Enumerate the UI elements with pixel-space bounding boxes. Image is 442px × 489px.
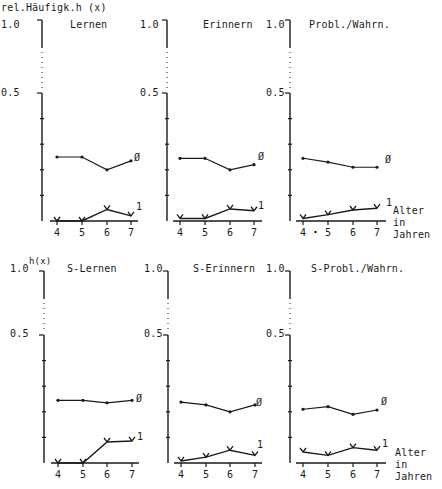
series-zero-line <box>58 400 132 403</box>
series-one-line <box>181 450 255 461</box>
series-zero-line <box>181 402 255 412</box>
series-zero-point <box>129 159 132 162</box>
series-zero-point <box>179 400 182 403</box>
series-zero-label: Ø <box>134 152 140 163</box>
series-zero-label: Ø <box>258 151 264 162</box>
series-one-marker <box>227 446 233 450</box>
series-one-label: 1 <box>386 197 392 208</box>
series-zero-point <box>351 166 354 169</box>
xtick-label: 5 <box>203 469 209 480</box>
series-one-marker <box>350 444 356 448</box>
stray-dot <box>314 231 316 233</box>
series-zero-point <box>204 403 207 406</box>
series-one-line <box>58 441 132 463</box>
series-zero-line <box>180 158 254 170</box>
series-zero-point <box>301 157 304 160</box>
series-zero-point <box>56 399 59 402</box>
xtick-label: 7 <box>251 227 257 238</box>
series-one-marker <box>104 205 110 209</box>
xtick-label: 4 <box>300 227 306 238</box>
series-one-line <box>57 209 131 221</box>
series-zero-point <box>80 155 83 158</box>
series-zero-point <box>228 410 231 413</box>
xtick-label: 7 <box>374 227 380 238</box>
series-one-label: 1 <box>136 201 142 212</box>
series-one-label: 1 <box>258 200 264 211</box>
series-zero-point <box>252 163 255 166</box>
series-zero-line <box>303 158 377 167</box>
series-zero-point <box>326 161 329 164</box>
series-zero-line <box>57 157 131 170</box>
xtick-label: 5 <box>80 469 86 480</box>
series-one-label: 1 <box>137 431 143 442</box>
series-zero-point <box>375 166 378 169</box>
xtick-label: 6 <box>350 469 356 480</box>
series-one-marker <box>300 448 306 452</box>
series-zero-point <box>228 168 231 171</box>
series-zero-point <box>326 405 329 408</box>
series-zero-point <box>105 168 108 171</box>
series-zero-point <box>301 408 304 411</box>
series-zero-label: Ø <box>381 396 387 407</box>
series-zero-label: Ø <box>136 393 142 404</box>
xtick-label: 4 <box>54 227 60 238</box>
xtick-label: 7 <box>374 469 380 480</box>
xtick-label: 5 <box>325 469 331 480</box>
series-zero-point <box>178 157 181 160</box>
series-zero-label: Ø <box>385 154 391 165</box>
xtick-label: 6 <box>227 227 233 238</box>
xtick-label: 5 <box>79 227 85 238</box>
xtick-label: 6 <box>227 469 233 480</box>
xtick-label: 7 <box>128 227 134 238</box>
xtick-label: 7 <box>129 469 135 480</box>
series-zero-point <box>105 401 108 404</box>
xtick-label: 6 <box>104 227 110 238</box>
xtick-label: 4 <box>55 469 61 480</box>
series-one-marker <box>227 205 233 209</box>
series-zero-point <box>351 413 354 416</box>
xtick-label: 4 <box>177 227 183 238</box>
xtick-label: 4 <box>300 469 306 480</box>
series-zero-point <box>203 157 206 160</box>
series-zero-line <box>303 407 377 415</box>
series-one-line <box>303 208 377 218</box>
xtick-label: 4 <box>178 469 184 480</box>
series-zero-point <box>130 399 133 402</box>
xtick-label: 5 <box>325 227 331 238</box>
xtick-label: 6 <box>350 227 356 238</box>
series-zero-point <box>81 399 84 402</box>
series-one-line <box>303 448 377 456</box>
series-one-line <box>180 209 254 218</box>
series-one-label: 1 <box>382 438 388 449</box>
xtick-label: 5 <box>202 227 208 238</box>
series-one-label: 1 <box>257 439 263 450</box>
series-zero-point <box>375 408 378 411</box>
series-zero-label: Ø <box>256 397 262 408</box>
chart-canvas: 4567Ø14567Ø14567Ø14567Ø14567Ø14567Ø1 <box>0 0 442 489</box>
series-zero-point <box>55 155 58 158</box>
xtick-label: 6 <box>104 469 110 480</box>
series-one-marker <box>374 204 380 208</box>
xtick-label: 7 <box>252 469 258 480</box>
